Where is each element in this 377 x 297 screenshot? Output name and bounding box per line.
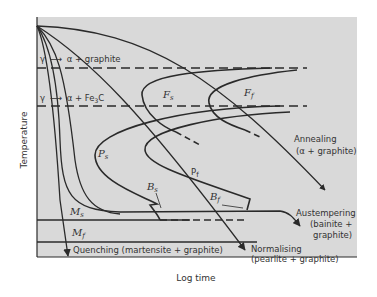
normalising-label-2: (pearlite + graphite)	[251, 254, 339, 264]
austempering-label: Austempering	[296, 208, 356, 218]
austempering-label-2: (bainite +	[310, 219, 352, 229]
x-axis-label: Log time	[176, 273, 216, 283]
annealing-label: Annealing	[294, 134, 337, 144]
graphite-reaction-label: γ ⟶ α + graphite	[40, 54, 121, 64]
ttt-diagram: γ ⟶ α + graphite γ ⟶ α + Fe3C Fs Ff Ps P…	[0, 0, 377, 297]
austempering-label-3: graphite)	[313, 230, 352, 240]
normalising-label: Normalising	[251, 244, 302, 254]
annealing-label-2: (α + graphite)	[296, 146, 357, 156]
quenching-label: Quenching (martensite + graphite)	[73, 245, 223, 255]
y-axis-label: Temperature	[19, 111, 29, 169]
